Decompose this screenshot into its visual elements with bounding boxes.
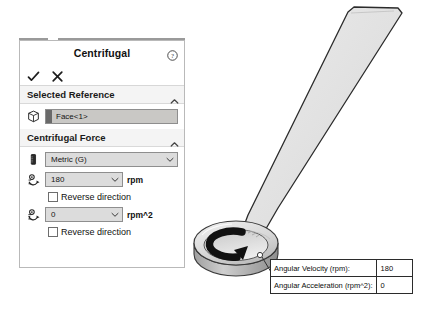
confirm-toolbar [20,65,184,86]
checkmark-icon[interactable] [27,69,40,82]
selected-reference-row: Face<1> [27,109,178,124]
table-row: Angular Velocity (rpm): 180 [271,260,412,277]
section-title-centrifugal-force: Centrifugal Force [27,132,170,143]
section-header-centrifugal-force[interactable]: Centrifugal Force [20,129,184,147]
angular-velocity-unit: rpm [127,175,143,185]
reverse-direction-acceleration-label: Reverse direction [61,227,131,237]
angular-velocity-value: 180 [46,175,108,184]
unit-system-row: Metric (G) [27,152,178,167]
angular-velocity-icon [27,172,45,187]
selected-reference-field[interactable]: Face<1> [45,109,178,124]
angular-acceleration-unit: rpm^2 [127,210,153,220]
angular-acceleration-callout-label: Angular Acceleration (rpm^2): [271,277,376,294]
section-body-centrifugal-force: Metric (G) 180 [20,147,184,247]
section-title-selected-reference: Selected Reference [27,89,170,100]
reverse-direction-velocity-row[interactable]: Reverse direction [48,192,178,202]
chevron-down-icon[interactable] [163,153,177,166]
reverse-direction-acceleration-row[interactable]: Reverse direction [48,227,178,237]
callout-table: Angular Velocity (rpm): 180 Angular Acce… [270,259,413,294]
reverse-direction-acceleration-checkbox[interactable] [48,227,58,237]
unit-system-dropdown[interactable]: Metric (G) [45,152,178,167]
chevron-down-icon[interactable] [108,208,122,221]
angular-acceleration-icon [27,207,45,222]
angular-velocity-row: 180 rpm [27,172,178,187]
close-x-icon[interactable] [51,69,64,82]
help-circle-icon[interactable]: ? [167,47,178,58]
angular-acceleration-row: 0 rpm^2 [27,207,178,222]
unit-ruler-icon [27,152,45,167]
angular-velocity-callout-label: Angular Velocity (rpm): [271,260,376,277]
angular-acceleration-callout-value: 0 [376,277,412,294]
cube-face-icon [27,109,45,124]
reverse-direction-velocity-checkbox[interactable] [48,192,58,202]
angular-acceleration-value: 0 [46,210,108,219]
chevron-up-icon[interactable] [170,134,179,141]
chevron-up-icon[interactable] [170,91,179,98]
chevron-down-icon[interactable] [108,173,122,186]
table-row: Angular Acceleration (rpm^2): 0 [271,277,412,294]
reverse-direction-velocity-label: Reverse direction [61,192,131,202]
angular-velocity-input[interactable]: 180 [45,172,123,187]
centrifugal-property-panel: Centrifugal ? Selected Reference [19,40,185,268]
page-title: Centrifugal [74,47,131,59]
section-header-selected-reference[interactable]: Selected Reference [20,86,184,104]
unit-system-value: Metric (G) [46,155,163,164]
angular-velocity-callout-value: 180 [376,260,412,277]
panel-title-bar: Centrifugal ? [20,41,184,65]
section-body-selected-reference: Face<1> [20,104,184,129]
svg-text:?: ? [171,52,174,59]
angular-acceleration-input[interactable]: 0 [45,207,123,222]
selected-reference-value: Face<1> [52,112,88,121]
